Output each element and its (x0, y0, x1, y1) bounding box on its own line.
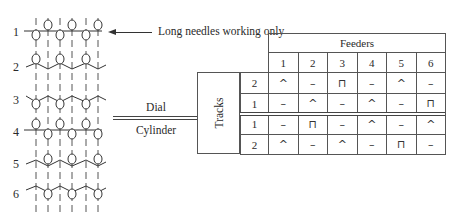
cam-symbol: – (269, 114, 299, 135)
cam-symbol: ^ (298, 94, 328, 114)
cam-symbol: – (416, 73, 446, 94)
cam-symbol: ^ (357, 94, 387, 114)
cam-symbol: – (298, 135, 328, 155)
cam-symbol: ⊓ (298, 114, 328, 135)
table-row: ^ – ^ – ⊓ – (269, 135, 446, 155)
cylinder-label: Cylinder (120, 124, 192, 136)
tracks-box: Tracks (197, 72, 240, 154)
cam-symbol: – (269, 94, 299, 114)
feeder-number: 1 (269, 53, 299, 73)
feeder-number: 4 (357, 53, 387, 73)
cam-arrangement-table: Feeders 1 2 3 4 5 6 ^ – ⊓ – ^ – – ^ – ^ … (268, 33, 446, 155)
track-number: 1 (241, 94, 269, 114)
left-arrow-icon (108, 29, 116, 35)
cam-symbol: – (387, 94, 417, 114)
arrow-shaft (116, 32, 152, 33)
cam-symbol: ⊓ (416, 94, 446, 114)
feeders-header: Feeders (269, 34, 446, 53)
cam-symbol: – (328, 114, 358, 135)
cam-symbol: ^ (357, 114, 387, 135)
dial-cylinder-table-divider (240, 112, 445, 116)
feeder-number-row: 1 2 3 4 5 6 (269, 53, 446, 73)
track-number: 2 (241, 73, 269, 94)
dial-label: Dial (128, 101, 184, 113)
cam-symbol: ^ (328, 135, 358, 155)
double-divider-line (113, 116, 197, 120)
table-row: ^ – ⊓ – ^ – (269, 73, 446, 94)
cam-symbol: – (387, 114, 417, 135)
cam-symbol: ⊓ (387, 135, 417, 155)
cam-symbol: – (416, 135, 446, 155)
cam-symbol: ^ (416, 114, 446, 135)
cam-symbol: – (357, 135, 387, 155)
tracks-label: Tracks (213, 98, 225, 129)
track-number: 2 (241, 135, 269, 155)
cam-symbol: ^ (269, 73, 299, 94)
track-number: 1 (241, 114, 269, 135)
feeder-number: 6 (416, 53, 446, 73)
feeder-number: 5 (387, 53, 417, 73)
table-row: – ^ – ^ – ⊓ (269, 94, 446, 114)
cam-symbol: ⊓ (328, 73, 358, 94)
cam-symbol: – (357, 73, 387, 94)
cam-symbol: ^ (269, 135, 299, 155)
feeder-number: 2 (298, 53, 328, 73)
cam-symbol: – (298, 73, 328, 94)
table-row: – ⊓ – ^ – ^ (269, 114, 446, 135)
annotation-long-needles: Long needles working only (158, 25, 284, 37)
cam-symbol: ^ (387, 73, 417, 94)
needle-loop-drawing (0, 0, 110, 220)
feeder-number: 3 (328, 53, 358, 73)
cam-symbol: – (328, 94, 358, 114)
